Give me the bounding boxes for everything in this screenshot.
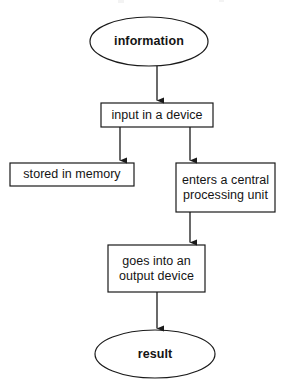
flowchart-canvas: information input in a device stored in …	[0, 0, 290, 387]
node-input-shape	[101, 103, 213, 127]
node-cpu-shape	[176, 163, 275, 212]
node-result-shape	[95, 330, 215, 378]
node-information-shape	[90, 17, 208, 66]
flowchart-graphics	[0, 0, 290, 387]
node-output-shape	[108, 245, 205, 292]
node-memory-shape	[10, 163, 134, 186]
